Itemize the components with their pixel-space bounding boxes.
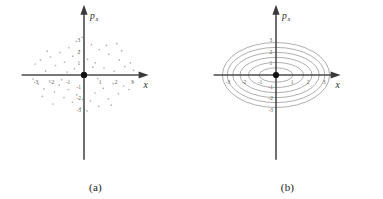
y-tick-label: -3	[269, 107, 274, 113]
scatter-point	[124, 66, 126, 68]
x-tick-label: -3	[226, 79, 231, 85]
panel-b: -3-2-1123321-1-2-3xpx (b)	[192, 0, 383, 199]
phase-space-scatter-plot: -3-2-1123321-1-2-3xpx	[0, 0, 191, 170]
scatter-point	[130, 62, 132, 64]
scatter-point	[74, 68, 76, 70]
x-tick-label: 3	[323, 79, 326, 85]
x-axis-label: x	[335, 80, 341, 90]
scatter-point	[108, 54, 110, 56]
y-axis-label: p	[89, 11, 95, 21]
scatter-point	[42, 96, 44, 98]
y-axis-label: p	[281, 11, 287, 21]
scatter-point	[133, 70, 135, 72]
scatter-point	[123, 85, 125, 87]
x-tick-label: 3	[131, 79, 134, 85]
scatter-point	[90, 100, 92, 102]
x-tick-label: -2	[50, 79, 55, 85]
x-tick-label: -2	[242, 79, 247, 85]
scatter-point	[72, 55, 74, 57]
phase-space-contour-plot: -3-2-1123321-1-2-3xpx	[192, 0, 383, 170]
scatter-point	[61, 79, 63, 81]
scatter-point	[54, 91, 56, 93]
scatter-point	[55, 65, 57, 67]
panel-b-caption: (b)	[192, 181, 383, 193]
panel-a-caption: (a)	[0, 181, 191, 193]
scatter-point	[46, 50, 48, 52]
scatter-point	[52, 103, 54, 105]
scatter-point	[45, 70, 47, 72]
y-tick-label: -2	[77, 95, 82, 101]
x-tick-label: -3	[34, 79, 39, 85]
x-tick-label: 2	[307, 79, 310, 85]
scatter-point	[94, 92, 96, 94]
scatter-point	[63, 97, 65, 99]
origin-point	[273, 72, 279, 78]
panel-a: -3-2-1123321-1-2-3xpx (a)	[0, 0, 191, 199]
scatter-point	[91, 44, 93, 46]
scatter-point	[103, 67, 105, 69]
origin-point	[81, 72, 87, 78]
scatter-point	[98, 105, 100, 107]
x-tick-label: -1	[66, 79, 71, 85]
figure-container: -3-2-1123321-1-2-3xpx (a) -3-2-1123321-1…	[0, 0, 383, 199]
scatter-point	[66, 71, 68, 73]
y-axis-label-subscript: x	[95, 15, 99, 22]
scatter-point	[86, 110, 88, 112]
scatter-point	[118, 93, 120, 95]
y-tick-label: 2	[269, 49, 272, 55]
y-tick-label: -3	[77, 107, 82, 113]
x-axis-label: x	[143, 80, 149, 90]
y-tick-label: 1	[269, 60, 272, 66]
scatter-point	[94, 62, 96, 64]
scatter-point	[58, 84, 60, 86]
scatter-point	[64, 61, 66, 63]
scatter-point	[107, 98, 109, 100]
scatter-point	[102, 87, 104, 89]
x-tick-label: -1	[258, 79, 263, 85]
y-tick-label: 1	[77, 60, 80, 66]
y-axis-arrow-icon	[272, 5, 279, 15]
x-axis-arrow-icon	[331, 71, 341, 78]
y-tick-label: -2	[269, 95, 274, 101]
y-tick-label: -1	[269, 84, 274, 90]
scatter-point	[98, 49, 100, 51]
y-axis-label-subscript: x	[287, 15, 291, 22]
scatter-point	[116, 43, 118, 45]
x-tick-label: 1	[99, 79, 102, 85]
scatter-point	[128, 89, 130, 91]
scatter-point	[72, 101, 74, 103]
scatter-point	[106, 45, 108, 47]
scatter-point	[87, 58, 89, 60]
x-tick-label: 1	[291, 79, 294, 85]
x-axis-arrow-icon	[139, 71, 149, 78]
scatter-point	[34, 63, 36, 65]
scatter-point	[67, 89, 69, 91]
scatter-point	[40, 59, 42, 61]
y-tick-label: 3	[269, 37, 272, 43]
scatter-point	[81, 36, 83, 38]
y-tick-label: 3	[77, 37, 80, 43]
y-axis-arrow-icon	[80, 5, 87, 15]
scatter-point	[121, 50, 123, 52]
scatter-point	[43, 88, 45, 90]
scatter-point	[59, 52, 61, 54]
y-tick-label: -1	[77, 84, 82, 90]
x-tick-label: 2	[115, 79, 118, 85]
scatter-point	[113, 70, 115, 72]
scatter-point	[110, 104, 112, 106]
scatter-point	[118, 59, 120, 61]
scatter-point	[50, 56, 52, 58]
scatter-point	[68, 47, 70, 49]
y-tick-label: 2	[77, 49, 80, 55]
scatter-point	[92, 66, 94, 68]
